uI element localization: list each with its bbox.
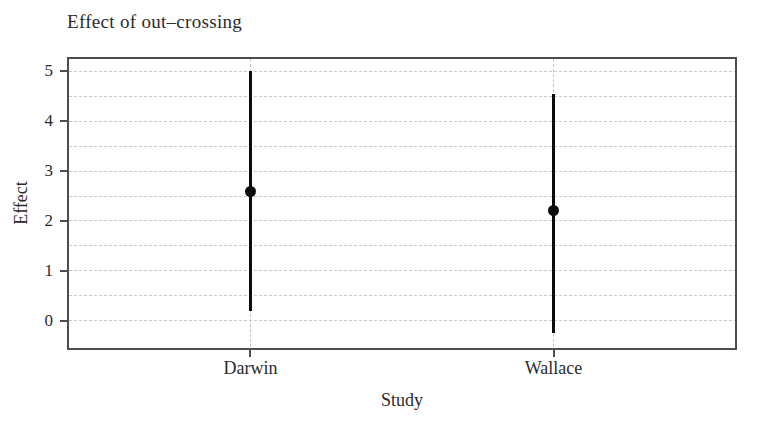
y-axis-tick [60,70,69,72]
x-axis-tick [553,348,555,357]
horizontal-gridline [69,171,735,172]
horizontal-gridline [69,220,735,221]
x-axis-label: Study [67,390,737,411]
horizontal-gridline [69,196,735,197]
y-axis-tick [60,320,69,322]
y-tick-label: 1 [17,260,53,282]
chart-title: Effect of out–crossing [67,11,242,33]
horizontal-gridline [69,320,735,321]
y-tick-label: 4 [17,110,53,132]
horizontal-gridline [69,71,735,72]
horizontal-gridline [69,295,735,296]
horizontal-gridline [69,270,735,271]
y-tick-label: 0 [17,310,53,332]
data-point [548,205,559,216]
data-point [245,186,256,197]
y-axis-tick [60,270,69,272]
y-tick-label: 3 [17,160,53,182]
y-tick-label: 5 [17,60,53,82]
horizontal-gridline [69,245,735,246]
y-tick-label: 2 [17,210,53,232]
horizontal-gridline [69,96,735,97]
y-axis-tick [60,120,69,122]
plot-area: 012345DarwinWallace [67,57,737,350]
y-axis-tick [60,220,69,222]
x-tick-label: Wallace [525,358,583,379]
x-tick-label: Darwin [223,358,277,379]
horizontal-gridline [69,146,735,147]
y-axis-tick [60,170,69,172]
x-axis-tick [249,348,251,357]
chart-figure: Effect of out–crossing Effect 012345Darw… [0,0,758,434]
horizontal-gridline [69,121,735,122]
